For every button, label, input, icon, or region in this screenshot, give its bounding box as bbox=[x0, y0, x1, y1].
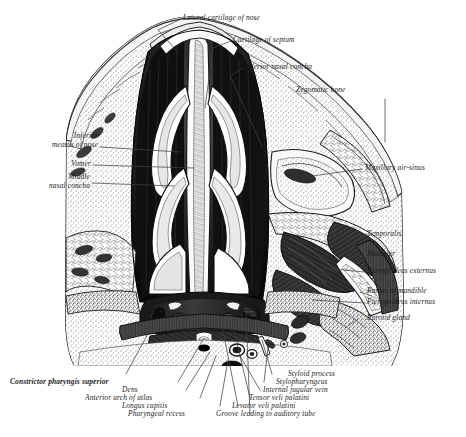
label-pharyngeal-recess: Pharyngeal recess bbox=[128, 410, 185, 419]
label-inferior-nasal-concha: Inferior nasal concha bbox=[245, 63, 312, 72]
label-groove-leading-to-auditory-tube: Groove leading to auditory tube bbox=[216, 410, 316, 419]
label-ramus-of-mandible: Ramus of mandible bbox=[367, 287, 427, 296]
label-masseter: Masseter bbox=[367, 250, 395, 259]
anatomical-illustration bbox=[0, 0, 466, 437]
label-constrictor-pharyngis-superior: Constrictor pharyngis superior bbox=[10, 378, 109, 387]
label-parotid-gland: Parotid gland bbox=[367, 314, 410, 323]
label-middle-concha-line2: nasal concha bbox=[0, 182, 90, 191]
figure-page: Lateral cartilage of nose Cartilage of s… bbox=[0, 0, 466, 437]
page-header-ghost bbox=[36, 0, 38, 8]
label-inferior-meatus-line2: meatus of nose bbox=[0, 141, 98, 150]
label-zygomatic-bone: Zygomatic bone bbox=[296, 86, 346, 95]
label-vomer: Vomer bbox=[0, 160, 91, 169]
label-pterygoideus-internus: Pterygoideus internus bbox=[367, 298, 435, 307]
label-lateral-cartilage-of-nose: Lateral cartilage of nose bbox=[183, 14, 260, 23]
label-middle-nasal-concha: Middle nasal concha bbox=[0, 173, 90, 190]
label-temporalis: Temporalis bbox=[367, 230, 402, 239]
label-inferior-meatus-of-nose: Inferior meatus of nose bbox=[0, 132, 98, 149]
label-pterygoideus-externus: Pterygoideus externus bbox=[367, 267, 436, 276]
label-maxillary-air-sinus: Maxillary air-sinus bbox=[365, 164, 425, 173]
label-cartilage-of-septum: Cartilage of septum bbox=[233, 36, 295, 45]
